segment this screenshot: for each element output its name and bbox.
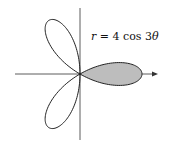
- upper-left-petal: [45, 19, 80, 74]
- polar-rose-chart: r = 4 cos 3θ: [0, 0, 169, 142]
- equation-label: r = 4 cos 3θ: [91, 30, 159, 43]
- x-axis-arrow-icon: [152, 72, 158, 77]
- shaded-petal: [80, 63, 142, 86]
- lower-left-petal: [45, 74, 80, 129]
